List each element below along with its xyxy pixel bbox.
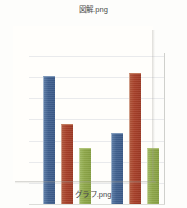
chart-baseline-axis bbox=[29, 204, 165, 205]
bottom-file-caption: グラフ.png bbox=[0, 188, 187, 199]
screenshot-canvas: 図解.png グラフ.png bbox=[0, 0, 187, 208]
top-file-caption: 図解.png bbox=[0, 3, 187, 14]
chart-image[interactable] bbox=[13, 26, 153, 181]
chart-right-frame-line bbox=[164, 53, 165, 205]
bar-group-1-series-1 bbox=[43, 76, 55, 204]
paper-shadow-right bbox=[152, 30, 155, 182]
paper-shadow-bottom bbox=[15, 181, 156, 184]
bar-group-2-series-2 bbox=[129, 73, 141, 204]
chart-gridline bbox=[29, 56, 165, 57]
